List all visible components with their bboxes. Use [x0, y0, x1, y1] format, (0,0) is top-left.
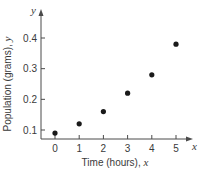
y-axis-title-text: Population (grams),	[2, 41, 13, 131]
data-point	[52, 130, 57, 135]
x-axis-title: Time (hours), x	[82, 156, 149, 168]
y-tick-label: 0.1	[23, 125, 37, 136]
scatter-chart: 0.10.20.30.4 012345 y x Time (hours), x …	[0, 0, 202, 175]
data-point	[173, 42, 178, 47]
x-axis-title-var: x	[142, 156, 148, 168]
data-point	[149, 72, 154, 77]
y-tick-label: 0.3	[23, 63, 37, 74]
x-tick-label: 2	[101, 143, 107, 154]
x-tick-label: 1	[76, 143, 82, 154]
data-point	[125, 91, 130, 96]
x-tick-label: 4	[149, 143, 155, 154]
y-tick-label: 0.4	[23, 33, 37, 44]
x-ticks: 012345	[52, 135, 179, 154]
x-axis-title-text: Time (hours),	[82, 157, 144, 168]
data-point	[101, 109, 106, 114]
y-axis-variable-label: y	[30, 4, 36, 16]
x-axis-variable-label: x	[191, 140, 197, 152]
y-tick-label: 0.2	[23, 94, 37, 105]
y-axis-title-var: y	[1, 36, 13, 42]
x-tick-label: 5	[173, 143, 179, 154]
y-axis-title: Population (grams), y	[1, 36, 13, 131]
axes	[39, 9, 194, 142]
x-tick-label: 3	[125, 143, 131, 154]
y-axis-arrow-icon	[39, 9, 44, 16]
data-point	[77, 121, 82, 126]
data-points	[52, 42, 178, 136]
y-ticks: 0.10.20.30.4	[23, 33, 45, 136]
x-tick-label: 0	[52, 143, 58, 154]
